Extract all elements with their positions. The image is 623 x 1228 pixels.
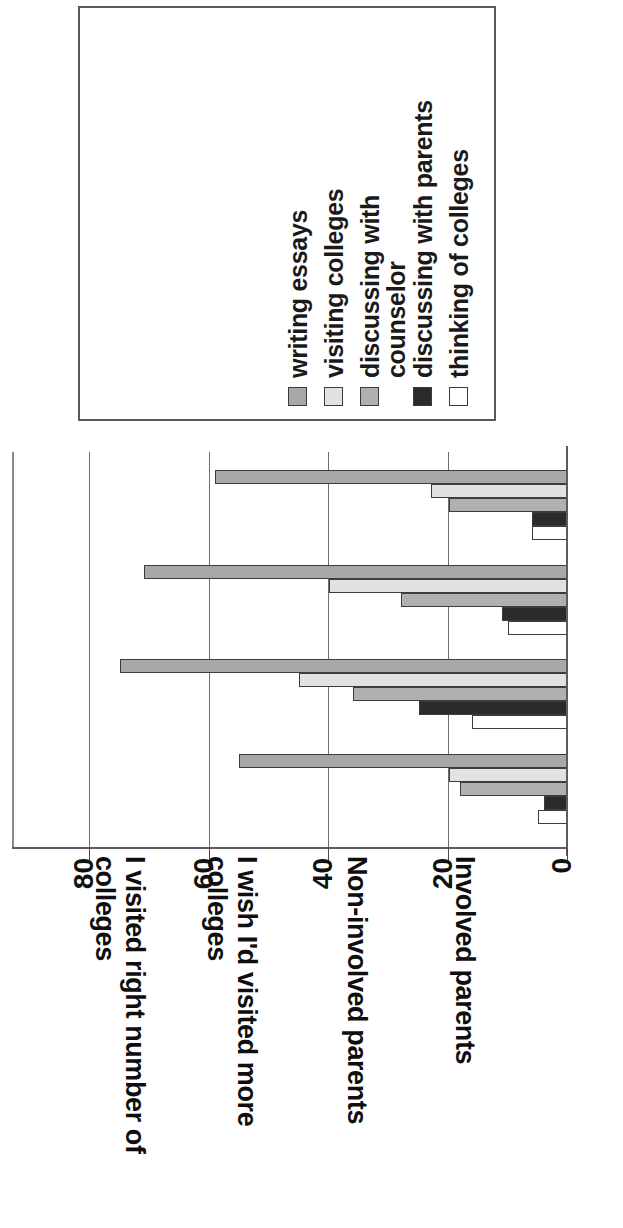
legend-label-discussing-with-counselor: discussing with counselor bbox=[358, 194, 409, 377]
category-label-4: Involved parents bbox=[450, 856, 480, 1228]
legend-swatch-icon-thinking-of-colleges bbox=[449, 387, 468, 406]
bar-3-1 bbox=[120, 659, 568, 673]
legend-item-visiting-colleges: visiting colleges bbox=[322, 100, 356, 406]
bar-2-5 bbox=[508, 621, 568, 635]
legend-label-visiting-colleges: visiting colleges bbox=[322, 188, 348, 377]
legend-rotated-container: writing essays visiting colleges discuss… bbox=[87, 14, 487, 414]
category-label-3: Non-involved parents bbox=[342, 856, 372, 1228]
bar-group-4 bbox=[12, 754, 568, 830]
category-label-2: I wish I'd visited more colleges bbox=[202, 856, 262, 1228]
legend-swatch-icon-discussing-with-parents bbox=[413, 387, 432, 406]
bar-2-4 bbox=[502, 607, 568, 621]
bar-3-4 bbox=[419, 701, 568, 715]
category-labels: I visited right number of collegesI wish… bbox=[0, 856, 623, 1228]
bar-2-3 bbox=[401, 593, 568, 607]
bar-1-4 bbox=[532, 512, 568, 526]
bar-3-3 bbox=[353, 687, 568, 701]
legend-swatch-icon-writing-essays bbox=[288, 387, 307, 406]
legend-swatch-icon-discussing-with-counselor bbox=[360, 387, 379, 406]
bar-4-4 bbox=[544, 796, 568, 810]
value-axis-line bbox=[566, 446, 568, 856]
bar-1-3 bbox=[449, 498, 569, 512]
bar-4-1 bbox=[239, 754, 568, 768]
chart-plot-area bbox=[12, 452, 568, 848]
legend-label-thinking-of-colleges: thinking of colleges bbox=[447, 149, 473, 378]
bar-group-2 bbox=[12, 565, 568, 641]
chart-legend: writing essays visiting colleges discuss… bbox=[78, 6, 496, 421]
bar-4-3 bbox=[460, 782, 568, 796]
legend-label-discussing-with-parents: discussing with parents bbox=[411, 100, 437, 378]
category-label-1: I visited right number of colleges bbox=[90, 856, 150, 1228]
bar-4-5 bbox=[538, 810, 568, 824]
legend-item-list: writing essays visiting colleges discuss… bbox=[286, 100, 481, 406]
bar-2-1 bbox=[144, 565, 568, 579]
plot-frame bbox=[12, 452, 568, 848]
bar-4-2 bbox=[449, 768, 569, 782]
legend-label-writing-essays: writing essays bbox=[286, 209, 312, 377]
bar-1-1 bbox=[215, 470, 568, 484]
legend-item-writing-essays: writing essays bbox=[286, 100, 320, 406]
bar-2-2 bbox=[329, 579, 568, 593]
legend-item-discussing-with-counselor: discussing with counselor bbox=[358, 100, 409, 406]
bar-1-5 bbox=[532, 526, 568, 540]
bar-group-3 bbox=[12, 659, 568, 735]
bar-3-2 bbox=[299, 673, 568, 687]
bar-1-2 bbox=[431, 484, 568, 498]
legend-item-thinking-of-colleges: thinking of colleges bbox=[447, 100, 481, 406]
bar-group-1 bbox=[12, 470, 568, 546]
legend-item-discussing-with-parents: discussing with parents bbox=[411, 100, 445, 406]
legend-swatch-icon-visiting-colleges bbox=[324, 387, 343, 406]
category-axis-line bbox=[12, 847, 568, 849]
bar-3-5 bbox=[472, 715, 568, 729]
